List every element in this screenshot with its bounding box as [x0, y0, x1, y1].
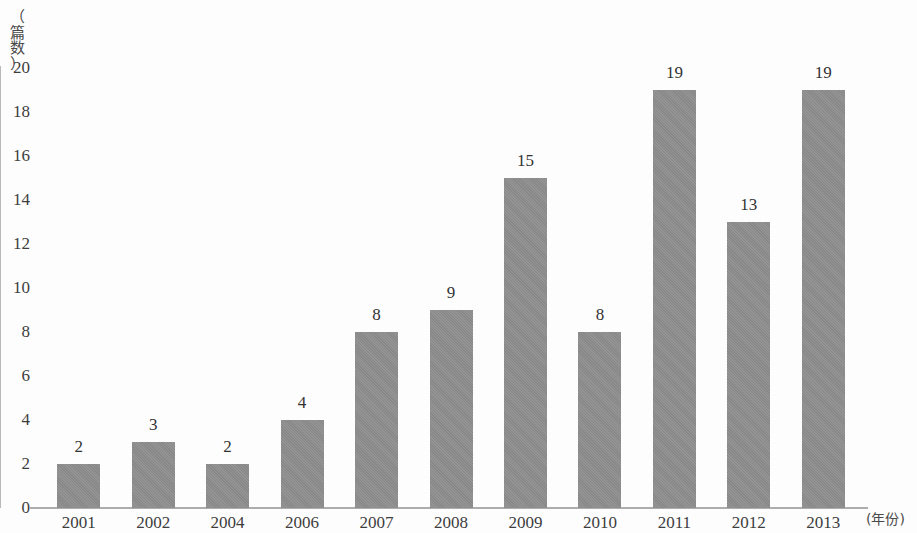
bar — [355, 332, 398, 508]
y-axis-tick-label: 18 — [0, 102, 30, 122]
x-axis-tick-label: 2010 — [560, 513, 640, 533]
x-axis-tick-label: 2011 — [634, 513, 714, 533]
bar — [430, 310, 473, 508]
x-axis-tick-label: 2012 — [709, 513, 789, 533]
bar — [653, 90, 696, 508]
x-axis-tick-label: 2006 — [262, 513, 342, 533]
bar-value-label: 19 — [644, 63, 704, 83]
bar-value-label: 2 — [198, 437, 258, 457]
bar-value-label: 8 — [347, 305, 407, 325]
bar-value-label: 15 — [495, 151, 555, 171]
x-axis-tick-label: 2013 — [783, 513, 863, 533]
bar-value-label: 19 — [793, 63, 853, 83]
x-axis-tick-label: 2008 — [411, 513, 491, 533]
bar-value-label: 4 — [272, 393, 332, 413]
bar — [504, 178, 547, 508]
bar-value-label: 3 — [123, 415, 183, 435]
bar-value-label: 2 — [49, 437, 109, 457]
y-axis-tick-label: 10 — [0, 278, 30, 298]
y-axis-tick-label: 6 — [0, 366, 30, 386]
bar — [57, 464, 100, 508]
y-axis-tick-label: 4 — [0, 410, 30, 430]
bar-chart: （ 篇 数 ） 02468101214161820 23248915819131… — [0, 0, 917, 533]
bar — [281, 420, 324, 508]
bar — [132, 442, 175, 508]
y-axis-tick-label: 8 — [0, 322, 30, 342]
x-axis-caption: (年份) — [866, 508, 905, 528]
y-axis-tick-label: 14 — [0, 190, 30, 210]
bar-value-label: 9 — [421, 283, 481, 303]
x-axis-tick-label: 2001 — [39, 513, 119, 533]
y-axis-tick-label: 2 — [0, 454, 30, 474]
x-axis-tick-label: 2009 — [485, 513, 565, 533]
bar — [727, 222, 770, 508]
bar — [802, 90, 845, 508]
x-axis-tick-label: 2007 — [337, 513, 417, 533]
bar — [206, 464, 249, 508]
bar — [578, 332, 621, 508]
x-axis-tick-label: 2002 — [113, 513, 193, 533]
bar-value-label: 8 — [570, 305, 630, 325]
y-axis-tick-label: 12 — [0, 234, 30, 254]
y-axis-tick-label: 0 — [0, 498, 30, 518]
y-axis-tick-label: 16 — [0, 146, 30, 166]
y-axis-tick-label: 20 — [0, 58, 30, 78]
x-axis-tick-label: 2004 — [188, 513, 268, 533]
plot-area: 232489158191319 — [37, 68, 865, 508]
bar-value-label: 13 — [719, 195, 779, 215]
